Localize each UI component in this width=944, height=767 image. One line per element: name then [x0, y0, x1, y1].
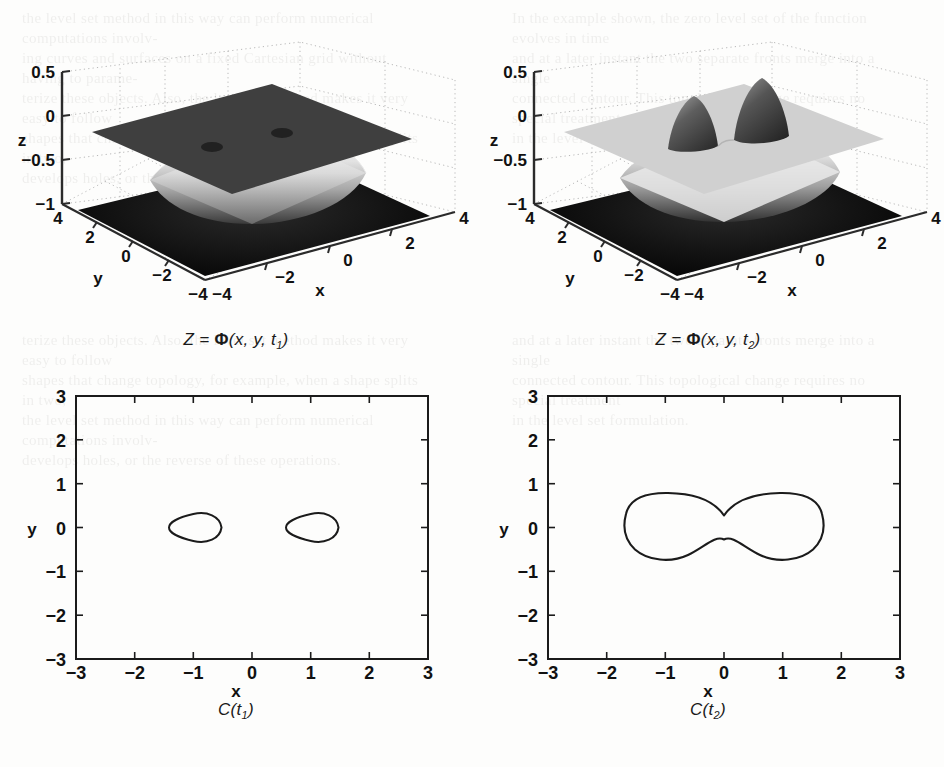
panel-contour-t2: 3 2 1 0 −1 −2 −3 y −3 −2 −1 0 1 2 3 [472, 382, 944, 682]
x-tick: 4 [931, 209, 941, 228]
y-tick: −4 [188, 285, 208, 304]
axis-z: 0.5 0 −0.5 −1 z [18, 63, 70, 214]
x-tick: −1 [183, 663, 204, 682]
x-tick: 3 [423, 663, 433, 682]
caption-prefix: Z = [183, 330, 214, 349]
axis-z: 0.5 0 −0.5 −1 z [490, 63, 542, 214]
x-tick: 4 [459, 209, 469, 228]
caption-prefix: C(t [690, 700, 714, 719]
y-tick-labels: 3 2 1 0 −1 −2 −3 [45, 387, 66, 670]
x-tick: −4 [212, 285, 232, 304]
y-axis-label: y [93, 269, 103, 288]
y-tick: −1 [517, 562, 538, 582]
x-tick: 1 [778, 663, 788, 682]
y-tick: −3 [45, 650, 66, 670]
x-tick-labels: −3 −2 −1 0 1 2 3 [538, 663, 905, 682]
x-tick: −3 [66, 663, 87, 682]
y-tick: −4 [660, 285, 680, 304]
y-tick: 1 [56, 475, 66, 495]
x-tick-labels: −3 −2 −1 0 1 2 3 [66, 663, 433, 682]
y-tick: −3 [517, 650, 538, 670]
caption-args: (x, y, t [229, 330, 276, 349]
panel-surface-t2: 0.5 0 −0.5 −1 z 4 2 [472, 28, 944, 318]
caption-suffix: ) [283, 330, 289, 349]
plot-box [76, 396, 428, 659]
caption-suffix: ) [755, 330, 761, 349]
x-tick: −2 [596, 663, 617, 682]
caption-suffix: ) [248, 700, 254, 719]
x-tick: 0 [719, 663, 729, 682]
y-tick: 2 [85, 228, 94, 247]
x-axis-label: x [315, 281, 325, 300]
caption-surface-t1: Z = Φ(x, y, t1) [0, 330, 472, 351]
z-tick: −0.5 [21, 151, 55, 170]
y-tickmarks [76, 440, 428, 615]
panel-surface-t1: 0.5 0 −0.5 −1 z 4 [0, 28, 472, 318]
z-tick: 0.5 [503, 63, 527, 82]
z-tick: 0 [46, 107, 55, 126]
y-tick: 4 [525, 209, 535, 228]
phi-symbol: Φ [686, 330, 700, 349]
x-tick: 2 [836, 663, 846, 682]
y-tickmarks [548, 440, 900, 615]
y-tick: −1 [45, 562, 66, 582]
z-tick: −1 [508, 195, 527, 214]
x-axis-label: x [787, 281, 797, 300]
x-tickmarks [607, 396, 842, 659]
z-tick: 0 [518, 107, 527, 126]
contour-curve-right [286, 513, 339, 542]
x-tick: 0 [815, 251, 824, 270]
y-tick: 2 [557, 228, 566, 247]
caption-prefix: Z = [655, 330, 686, 349]
x-axis-caption-bl: x [0, 682, 472, 702]
x-tick: 2 [877, 234, 886, 253]
y-tick: −2 [45, 606, 66, 626]
x-tick: −2 [747, 268, 766, 287]
x-tick: −4 [684, 285, 704, 304]
z-tick: −1 [36, 195, 55, 214]
caption-prefix: C(t [218, 700, 242, 719]
y-axis-label: y [27, 520, 37, 539]
y-tick-labels: 3 2 1 0 −1 −2 −3 [517, 387, 538, 670]
bump-right [271, 128, 293, 138]
y-tick: 0 [121, 247, 130, 266]
y-tick: 2 [528, 431, 538, 451]
x-tick: 3 [895, 663, 905, 682]
caption-args: (x, y, t [701, 330, 748, 349]
y-tick: 0 [593, 247, 602, 266]
y-tick: 2 [56, 431, 66, 451]
z-tick: 0.5 [31, 63, 55, 82]
x-tick: −2 [275, 268, 294, 287]
y-tick: −2 [624, 266, 643, 285]
x-tick: 0 [247, 663, 257, 682]
y-axis-label: y [499, 520, 509, 539]
x-tick: −2 [124, 663, 145, 682]
y-tick: 3 [56, 387, 66, 407]
caption-suffix: ) [720, 700, 726, 719]
x-tick: 0 [343, 251, 352, 270]
z-tick: −0.5 [493, 151, 527, 170]
contour-curve-merged [625, 493, 824, 560]
contour-curve-left [169, 513, 222, 542]
x-tick: −3 [538, 663, 559, 682]
y-tick: 0 [528, 519, 538, 539]
figure-page: the level set method in this way can per… [0, 0, 944, 767]
x-axis-caption-br: x [472, 682, 944, 702]
y-tick: 1 [528, 475, 538, 495]
z-axis-label: z [18, 131, 27, 150]
phi-symbol: Φ [214, 330, 228, 349]
y-tick: −2 [517, 606, 538, 626]
y-axis-label: y [565, 269, 575, 288]
caption-contour-t1: C(t1) [0, 700, 472, 721]
x-tick: 1 [306, 663, 316, 682]
y-tick: 4 [53, 209, 63, 228]
caption-contour-t2: C(t2) [472, 700, 944, 721]
x-tick: −1 [655, 663, 676, 682]
y-tick: 0 [56, 519, 66, 539]
bump-left [201, 142, 223, 152]
y-tick: 3 [528, 387, 538, 407]
plot-box [548, 396, 900, 659]
caption-surface-t2: Z = Φ(x, y, t2) [472, 330, 944, 351]
x-tick: 2 [364, 663, 374, 682]
x-tick: 2 [405, 234, 414, 253]
